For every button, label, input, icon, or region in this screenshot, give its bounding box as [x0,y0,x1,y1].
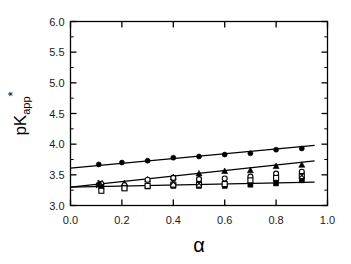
data-point [274,147,279,152]
x-tick-label: 0.4 [166,214,181,226]
figure-panel: 0.00.20.40.60.81.0 3.03.54.04.55.05.56.0… [0,0,351,264]
y-tick-label: 4.0 [49,138,64,150]
data-point [171,155,176,160]
data-point [145,177,150,182]
data-point [96,162,101,167]
y-axis-label: pKapp* [5,91,32,135]
data-point [274,181,279,186]
x-axis-title: α [193,234,205,256]
x-axis-label: α [193,234,205,256]
x-tick-labels: 0.00.20.40.60.81.0 [63,214,335,226]
x-tick-label: 0.0 [63,214,78,226]
y-tick-label: 5.5 [49,46,64,58]
data-point [222,176,227,181]
data-markers [96,146,305,193]
data-point [274,175,279,180]
data-point [248,178,253,183]
data-point [145,158,150,163]
data-point [99,188,104,193]
data-point [119,160,124,165]
y-axis-title: pKapp* [5,91,32,135]
y-tick-label: 3.5 [49,169,64,181]
data-point [145,183,150,188]
data-point [222,152,227,157]
y-tick-label: 6.0 [49,16,64,28]
data-point [222,182,227,187]
x-tick-label: 0.2 [114,214,129,226]
data-point [299,146,304,151]
y-tick-labels: 3.03.54.04.55.05.56.0 [49,16,64,212]
y-tick-label: 3.0 [49,200,64,212]
x-tick-label: 0.6 [217,214,232,226]
x-tick-label: 0.8 [268,214,283,226]
chart-plot: 0.00.20.40.60.81.0 3.03.54.04.55.05.56.0… [0,0,351,264]
data-point [122,186,127,191]
x-tick-label: 1.0 [320,214,335,226]
svg-text:pKapp*: pKapp* [5,91,32,135]
data-point [197,154,202,159]
data-point [248,151,253,156]
y-tick-label: 4.5 [49,108,64,120]
y-tick-label: 5.0 [49,77,64,89]
